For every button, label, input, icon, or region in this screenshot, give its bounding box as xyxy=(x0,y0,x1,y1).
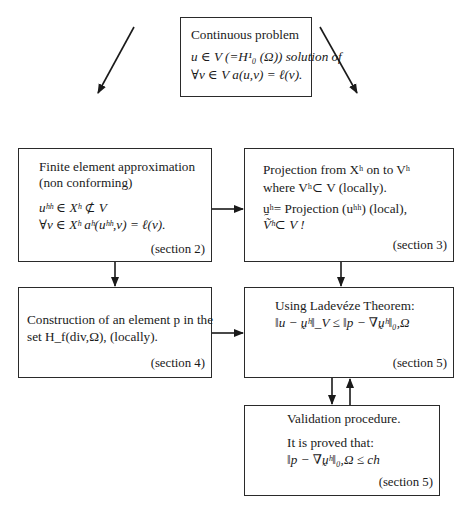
fe-section: (section 2) xyxy=(151,242,205,257)
fe-line2: ∀v ∈ Xʰ aʰ(uʰʰ,v) = ℓ(v). xyxy=(39,217,211,233)
validation-title: Validation procedure. xyxy=(287,411,439,427)
continuous-line1: u ∈ V (=H¹₀ (Ω)) solution of xyxy=(191,49,311,65)
projection-line1: where Vʰ⊂ V (locally). xyxy=(263,180,453,196)
box-construction: Construction of an element p in the set … xyxy=(18,287,212,378)
projection-section: (section 3) xyxy=(393,238,447,253)
construction-section: (section 4) xyxy=(151,356,205,371)
box-fe-approximation: Finite element approximation (non confor… xyxy=(18,148,212,262)
box-projection: Projection from Xʰ on to Vʰ where Vʰ⊂ V … xyxy=(244,148,454,262)
continuous-line2: ∀v ∈ V a(u,v) = ℓ(v). xyxy=(191,67,311,83)
ladeveze-title: Using Ladevéze Theorem: xyxy=(275,298,453,314)
ladeveze-section: (section 5) xyxy=(393,356,447,371)
projection-title: Projection from Xʰ on to Vʰ xyxy=(263,162,453,178)
box-ladeveze-theorem: Using Ladevéze Theorem: ‖u − ṵʰ‖_V ≤ ‖p … xyxy=(244,287,454,378)
fe-title: Finite element approximation xyxy=(39,159,211,175)
arrow-continuous-to-fe xyxy=(98,27,134,93)
validation-section: (section 5) xyxy=(379,475,433,490)
projection-line2: ṵʰ= Projection (uʰʰ) (local), xyxy=(263,201,453,217)
construction-line2: set H_f(div,Ω), (locally). xyxy=(27,329,211,345)
box-validation-procedure: Validation procedure. It is proved that:… xyxy=(244,405,440,496)
ladeveze-line1: ‖u − ṵʰ‖_V ≤ ‖p − ∇ṵʰ‖₀,Ω xyxy=(275,315,453,331)
box-continuous-problem: Continuous problem u ∈ V (=H¹₀ (Ω)) solu… xyxy=(180,17,312,97)
continuous-title: Continuous problem xyxy=(191,27,311,43)
fe-line1: uʰʰ ∈ Xʰ ⊄ V xyxy=(39,200,211,216)
validation-line2: ‖p − ∇ṵʰ‖₀,Ω ≤ ch xyxy=(287,452,439,468)
validation-line1: It is proved that: xyxy=(287,435,439,451)
fe-subtitle: (non conforming) xyxy=(39,175,211,191)
construction-line1: Construction of an element p in the xyxy=(27,312,211,328)
projection-line3: Ṽʰ⊂ V ! xyxy=(263,217,453,233)
